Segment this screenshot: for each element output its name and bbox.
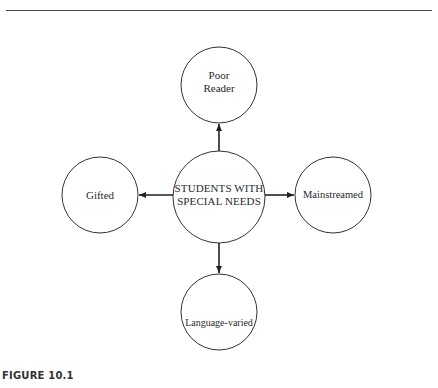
bottom-node-label: Language-varied bbox=[179, 314, 259, 332]
top-label-line1: Poor bbox=[209, 69, 230, 82]
left-label: Gifted bbox=[86, 189, 114, 202]
left-node-label: Gifted bbox=[62, 186, 138, 204]
right-label: Mainstreamed bbox=[303, 189, 363, 201]
bottom-label: Language-varied bbox=[185, 317, 253, 329]
bottom-node-circle bbox=[181, 274, 257, 350]
figure-caption: FIGURE 10.1 bbox=[2, 370, 74, 381]
top-node-label: Poor Reader bbox=[181, 62, 257, 102]
right-node-label: Mainstreamed bbox=[295, 186, 371, 204]
top-label-line2: Reader bbox=[203, 82, 234, 95]
center-label-line1: STUDENTS WITH bbox=[175, 182, 264, 195]
center-node-label: STUDENTS WITH SPECIAL NEEDS bbox=[173, 172, 265, 218]
center-label-line2: SPECIAL NEEDS bbox=[177, 195, 261, 208]
